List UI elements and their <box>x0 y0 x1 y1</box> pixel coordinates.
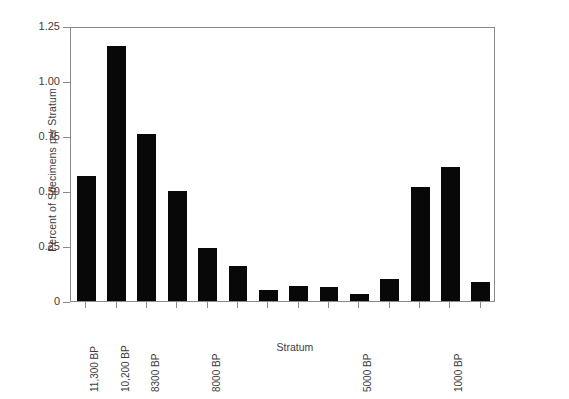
bar-chart-figure: Percent of Specimens per Stratum 1.251.0… <box>0 0 569 399</box>
x-axis-tick-mark <box>298 302 299 308</box>
bar <box>471 282 490 301</box>
bar <box>198 248 217 301</box>
y-axis-tick-mark <box>63 247 70 248</box>
bp-annotation-label: 10,200 BP <box>120 322 131 392</box>
y-axis-tick-label: 1.00 <box>14 75 60 87</box>
y-axis-tick-label: 0 <box>14 295 60 307</box>
y-axis-tick-label: 0.50 <box>14 185 60 197</box>
x-axis-tick-mark <box>449 302 450 308</box>
y-axis-tick-mark <box>63 137 70 138</box>
x-axis-tick-mark <box>358 302 359 308</box>
bar <box>350 294 369 301</box>
bar <box>320 287 339 301</box>
bar <box>259 290 278 301</box>
y-axis-tick-mark <box>63 27 70 28</box>
y-axis-tick-labels: 1.251.000.750.500.250 <box>14 0 60 399</box>
bp-annotation-label: 8000 BP <box>211 322 222 392</box>
bar <box>137 134 156 301</box>
x-axis-tick-mark <box>85 302 86 308</box>
bar-series <box>71 28 494 301</box>
bar <box>441 167 460 301</box>
bar <box>411 187 430 301</box>
x-axis-tick-mark <box>419 302 420 308</box>
x-axis-tick-mark <box>146 302 147 308</box>
bp-annotation-label: 1000 BP <box>453 322 464 392</box>
bp-annotation-label: 11,300 BP <box>89 322 100 392</box>
x-axis-tick-mark <box>267 302 268 308</box>
y-axis-tick-label: 1.25 <box>14 20 60 32</box>
bar <box>289 286 308 301</box>
bar <box>107 46 126 301</box>
plot-area <box>70 27 495 302</box>
bp-annotation-label: 5000 BP <box>362 322 373 392</box>
y-axis-tick-mark <box>63 192 70 193</box>
y-axis-tick-label: 0.25 <box>14 240 60 252</box>
bar <box>168 191 187 301</box>
bar <box>77 176 96 301</box>
x-axis-tick-mark <box>237 302 238 308</box>
bar <box>229 266 248 301</box>
x-axis-tick-mark <box>116 302 117 308</box>
y-axis-tick-mark <box>63 302 70 303</box>
x-axis-tick-mark <box>328 302 329 308</box>
x-axis-tick-mark <box>480 302 481 308</box>
x-axis-tick-mark <box>176 302 177 308</box>
y-axis-tick-label: 0.75 <box>14 130 60 142</box>
bar <box>380 279 399 301</box>
bp-annotation-label: 8300 BP <box>150 322 161 392</box>
x-axis-tick-mark <box>389 302 390 308</box>
x-axis-tick-mark <box>207 302 208 308</box>
x-axis-title: Stratum <box>240 341 350 353</box>
y-axis-tick-mark <box>63 82 70 83</box>
